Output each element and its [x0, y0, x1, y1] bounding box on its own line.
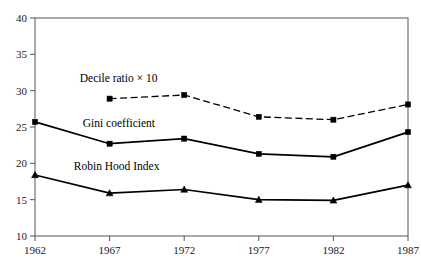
x-axis-tick-label: 1987 [397, 244, 420, 256]
data-point-marker [107, 96, 112, 101]
y-axis-tick-label: 35 [16, 48, 28, 60]
data-point-marker [32, 119, 37, 124]
x-axis-tick-label: 1962 [24, 244, 46, 256]
y-axis-tick-label: 20 [16, 157, 28, 169]
x-axis-tick-label: 1977 [248, 244, 271, 256]
data-point-marker [331, 154, 336, 159]
x-axis-tick-label: 1982 [322, 244, 344, 256]
series-label: Gini coefficient [83, 117, 156, 129]
y-axis-tick-label: 30 [16, 85, 28, 97]
data-point-marker [256, 114, 261, 119]
x-axis-tick-label: 1967 [99, 244, 122, 256]
data-point-marker [405, 129, 410, 134]
y-axis-tick-label: 15 [16, 194, 28, 206]
y-axis-tick-label: 40 [16, 12, 28, 24]
data-point-marker [107, 141, 112, 146]
data-point-marker [331, 117, 336, 122]
series-label: Decile ratio × 10 [80, 72, 158, 84]
line-chart: 40353025201510196219671972197719821987De… [0, 0, 421, 264]
data-point-marker [182, 136, 187, 141]
chart-container: 40353025201510196219671972197719821987De… [0, 0, 421, 264]
x-axis-tick-label: 1972 [173, 244, 195, 256]
y-axis-tick-label: 25 [16, 121, 28, 133]
data-point-marker [182, 92, 187, 97]
data-point-marker [405, 102, 410, 107]
data-point-marker [256, 151, 261, 156]
y-axis-tick-label: 10 [16, 230, 28, 242]
series-label: Robin Hood Index [74, 160, 160, 172]
